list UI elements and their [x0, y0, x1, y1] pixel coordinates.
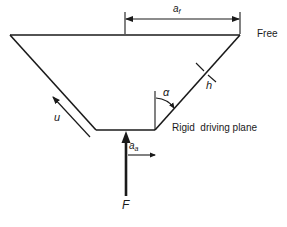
- thickness-tick-upper: [196, 63, 204, 71]
- left-slanted-edge: [10, 35, 96, 130]
- dimension-af-label: af: [173, 4, 181, 15]
- thickness-h-label: h: [206, 80, 212, 91]
- dimension-af-subscript: f: [179, 8, 181, 15]
- right-slanted-edge: [155, 35, 240, 130]
- dimension-af: [125, 12, 240, 34]
- diagram-canvas: [0, 0, 287, 227]
- rigid-driving-plane-label: Rigid driving plane: [172, 123, 257, 133]
- dimension-aa-subscript: a: [135, 145, 139, 152]
- angle-alpha-label: α: [163, 87, 169, 98]
- angle-arc: [156, 98, 174, 108]
- velocity-u-label: u: [54, 112, 60, 123]
- dimension-aa-label: aa: [129, 141, 138, 152]
- free-surface-label: Free: [257, 29, 278, 39]
- force-f-label: F: [122, 199, 129, 211]
